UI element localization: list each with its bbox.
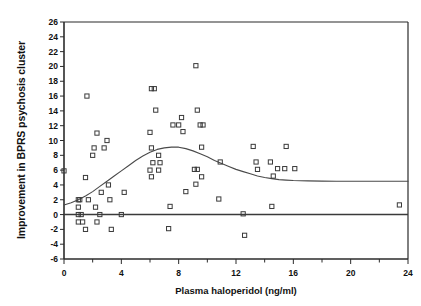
data-point-marker <box>95 131 99 135</box>
data-point-marker <box>275 167 279 171</box>
data-point-marker <box>152 87 156 91</box>
data-point-marker <box>76 205 80 209</box>
data-point-marker <box>148 168 152 172</box>
data-point-marker <box>158 161 162 165</box>
data-point-marker <box>149 175 153 179</box>
data-point-marker <box>149 87 153 91</box>
data-point-marker <box>179 115 183 119</box>
data-point-marker <box>105 138 109 142</box>
chart-figure: Improvement in BPRS psychosis cluster Pl… <box>0 0 421 306</box>
data-point-marker <box>284 144 288 148</box>
data-point-marker <box>91 153 95 157</box>
fit-curve <box>64 147 408 205</box>
data-point-marker <box>106 183 110 187</box>
data-point-marker <box>217 197 221 201</box>
data-point-marker <box>201 123 205 127</box>
data-point-marker <box>83 227 87 231</box>
data-point-marker <box>184 190 188 194</box>
data-point-marker <box>171 123 175 127</box>
data-point-marker <box>93 205 97 209</box>
data-point-marker <box>95 220 99 224</box>
data-point-marker <box>109 227 113 231</box>
data-point-marker <box>195 167 199 171</box>
data-point-marker <box>397 203 401 207</box>
data-point-marker <box>177 123 181 127</box>
data-point-marker <box>271 174 275 178</box>
data-points <box>62 64 402 238</box>
data-point-marker <box>194 182 198 186</box>
data-point-marker <box>241 212 245 216</box>
data-point-marker <box>200 175 204 179</box>
data-point-marker <box>148 130 152 134</box>
data-point-marker <box>108 198 112 202</box>
scatter-plot-canvas <box>0 0 421 306</box>
data-point-marker <box>168 204 172 208</box>
data-point-marker <box>92 146 96 150</box>
data-point-marker <box>194 64 198 68</box>
data-point-marker <box>200 145 204 149</box>
fit-curve-path <box>64 147 408 205</box>
data-point-marker <box>76 220 80 224</box>
data-point-marker <box>268 160 272 164</box>
data-point-marker <box>195 108 199 112</box>
data-point-marker <box>85 94 89 98</box>
data-point-marker <box>192 167 196 171</box>
data-point-marker <box>99 190 103 194</box>
data-point-marker <box>86 198 90 202</box>
data-point-marker <box>154 108 158 112</box>
data-point-marker <box>157 168 161 172</box>
data-point-marker <box>81 220 85 224</box>
data-point-marker <box>149 146 153 150</box>
data-point-marker <box>122 190 126 194</box>
data-point-marker <box>83 175 87 179</box>
data-point-marker <box>283 167 287 171</box>
axis-lines <box>64 22 408 259</box>
data-point-marker <box>198 123 202 127</box>
data-point-marker <box>293 167 297 171</box>
data-point-marker <box>270 204 274 208</box>
data-point-marker <box>243 233 247 237</box>
data-point-marker <box>102 146 106 150</box>
data-point-marker <box>181 130 185 134</box>
data-point-marker <box>255 167 259 171</box>
data-point-marker <box>167 227 171 231</box>
data-point-marker <box>151 161 155 165</box>
data-point-marker <box>254 160 258 164</box>
data-point-marker <box>251 144 255 148</box>
data-point-marker <box>157 153 161 157</box>
